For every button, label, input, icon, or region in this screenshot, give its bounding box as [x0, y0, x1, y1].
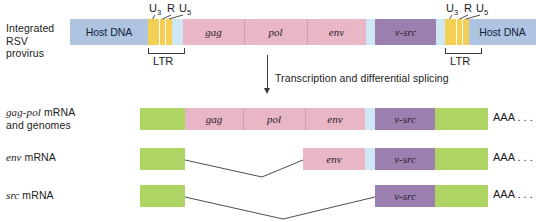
env-segment-v-src-label: v-src: [394, 153, 416, 165]
ltr-left-r-label: R: [167, 2, 175, 15]
ltr-right-u3-label: U3: [446, 2, 458, 20]
process-arrow-head: [264, 88, 270, 94]
env-segment-v-src: v-src: [375, 148, 435, 170]
gagpol-segment-polya-green: [435, 108, 488, 130]
provirus-segment-host-dna-right-label: Host DNA: [479, 26, 526, 38]
provirus-gene-divider-pol-env: [307, 19, 308, 45]
provirus-segment-host-dna-right: Host DNA: [469, 19, 536, 45]
gagpol-segment-env: env: [305, 108, 365, 130]
gagpol-segment-gag-label: gag: [206, 113, 223, 125]
gagpol-segment-v-src-label: v-src: [394, 113, 416, 125]
provirus-segment-host-dna-left-label: Host DNA: [86, 26, 133, 38]
provirus-segment-v-src-label: v-src: [395, 26, 417, 38]
env-poly-a-label: AAA . . .: [493, 151, 533, 163]
ltr-left-u5-label: U5: [179, 2, 191, 20]
gagpol-mrna-bar: gagpolenvv-srcAAA . . .: [0, 108, 536, 130]
gagpol-segment-v-src: v-src: [375, 108, 435, 130]
ltr-right-brace-tick-end: [481, 48, 482, 54]
gagpol-segment-cap-5prime: [140, 108, 185, 130]
ltr-right-divider-2: [462, 19, 463, 45]
ltr-right-divider-1: [456, 19, 457, 45]
gagpol-gene-divider-pol-env: [305, 108, 306, 130]
provirus-segment-gag: gag: [183, 19, 244, 45]
provirus-label-line3: provirus: [6, 47, 54, 60]
gagpol-gene-divider-gag-pol: [243, 108, 244, 130]
provirus-segment-pol-label: pol: [268, 26, 282, 38]
env-segment-polya-green: [435, 148, 488, 170]
process-arrow-shaft: [267, 55, 268, 90]
gagpol-segment-pol-label: pol: [267, 113, 281, 125]
src-segment-v-src-label: v-src: [394, 190, 416, 202]
gagpol-segment-pol: pol: [243, 108, 305, 130]
gagpol-segment-spacer: [365, 108, 375, 130]
src-mrna-bar: v-srcAAA . . .: [0, 185, 536, 207]
ltr-right-brace-label: LTR: [450, 55, 470, 68]
provirus-bar: Host DNAgagpolenvv-srcHost DNA: [0, 19, 536, 45]
ltr-left-u3-label: U3: [149, 2, 161, 20]
provirus-segment-spacer-right-2: [436, 19, 445, 45]
src-segment-cap-5prime: [140, 185, 185, 207]
provirus-segment-pol: pol: [244, 19, 307, 45]
ltr-left-divider-2: [165, 19, 166, 45]
ltr-left-divider-1: [159, 19, 160, 45]
provirus-segment-ltr-right-u3: [445, 19, 456, 45]
gagpol-poly-a-label: AAA . . .: [493, 111, 533, 123]
provirus-segment-host-dna-left: Host DNA: [70, 19, 148, 45]
ltr-right-r-label: R: [464, 2, 472, 15]
env-mrna-bar: envv-srcAAA . . .: [0, 148, 536, 170]
ltr-left-brace-bar: [148, 53, 185, 54]
ltr-left-brace-tick-end: [184, 48, 185, 54]
gagpol-segment-gag: gag: [185, 108, 243, 130]
figure-canvas: Integrated RSV provirus U3 R U5 U3 R U5 …: [0, 0, 536, 222]
gagpol-segment-env-label: env: [327, 113, 342, 125]
env-segment-cap-5prime: [140, 148, 185, 170]
provirus-segment-env-label: env: [329, 26, 344, 38]
provirus-segment-v-src: v-src: [375, 19, 436, 45]
provirus-segment-ltr-left-u3: [148, 19, 159, 45]
provirus-segment-gag-label: gag: [205, 26, 222, 38]
process-arrow-label: Transcription and differential splicing: [275, 72, 449, 85]
src-segment-v-src: v-src: [375, 185, 435, 207]
provirus-segment-env: env: [307, 19, 366, 45]
env-segment-env-label: env: [326, 153, 341, 165]
provirus-segment-leader-left: [172, 19, 183, 45]
env-segment-env: env: [303, 148, 365, 170]
provirus-gene-divider-gag-pol: [244, 19, 245, 45]
ltr-left-brace-label: LTR: [153, 55, 173, 68]
src-poly-a-label: AAA . . .: [493, 188, 533, 200]
provirus-segment-spacer-right: [366, 19, 375, 45]
env-segment-spacer: [365, 148, 375, 170]
src-segment-polya-green: [435, 185, 488, 207]
ltr-right-brace-bar: [445, 53, 482, 54]
ltr-right-u5-label: U5: [476, 2, 488, 20]
